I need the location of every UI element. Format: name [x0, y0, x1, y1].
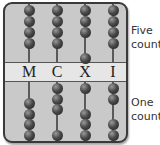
bead-i-2: [108, 27, 119, 38]
bead-m-7: [24, 130, 35, 141]
place-value-label-bar: M C X I: [5, 62, 126, 82]
bead-c-3: [52, 38, 63, 49]
bead-x-7: [80, 130, 91, 141]
bead-c-7: [52, 130, 63, 141]
bead-x-0: [80, 5, 91, 16]
bead-x-6: [80, 119, 91, 130]
bead-i-1: [108, 16, 119, 27]
abacus-frame: M C X I: [3, 2, 128, 143]
bead-c-5: [52, 94, 63, 105]
one-counters-label: One count: [131, 96, 160, 124]
five-counters-line2: count: [131, 38, 160, 52]
bead-i-6: [108, 119, 119, 130]
bead-m-2: [24, 27, 35, 38]
bead-x-4: [80, 83, 91, 94]
bead-c-1: [52, 16, 63, 27]
bead-m-5: [24, 109, 35, 120]
bead-m-3: [24, 38, 35, 49]
bead-c-2: [52, 27, 63, 38]
bead-i-3: [108, 38, 119, 49]
bead-i-7: [108, 130, 119, 141]
bead-c-4: [52, 83, 63, 94]
one-counters-line1: One: [131, 96, 160, 110]
five-counters-label: Five count: [131, 24, 160, 52]
bead-m-4: [24, 98, 35, 109]
bead-m-6: [24, 119, 35, 130]
bead-c-0: [52, 5, 63, 16]
bead-x-5: [80, 109, 91, 120]
five-counters-line1: Five: [131, 24, 160, 38]
bead-i-5: [108, 94, 119, 105]
label-x: X: [75, 63, 95, 81]
bead-m-1: [24, 16, 35, 27]
bead-i-0: [108, 5, 119, 16]
bead-i-4: [108, 83, 119, 94]
bead-c-6: [52, 104, 63, 115]
one-counters-line2: count: [131, 110, 160, 124]
bead-x-1: [80, 16, 91, 27]
bead-x-2: [80, 27, 91, 38]
label-m: M: [19, 63, 39, 81]
bead-x-3: [80, 53, 91, 64]
label-i: I: [103, 63, 123, 81]
bead-m-0: [24, 5, 35, 16]
label-c: C: [47, 63, 67, 81]
